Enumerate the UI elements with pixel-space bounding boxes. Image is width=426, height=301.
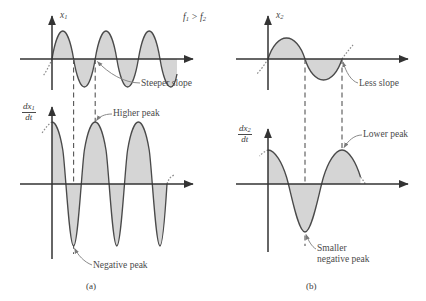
annotation-steeper-slope: Steeper slope	[141, 78, 192, 89]
frequency-condition: f1 > f2	[183, 12, 206, 22]
a-displacement-dotted-tail	[43, 59, 52, 76]
axis-label-dx2dt-denominator: dt	[238, 135, 252, 144]
annotation-less-slope: Less slope	[359, 78, 399, 89]
panel-tag-b: (b)	[306, 281, 317, 291]
figure-root: f1 > f2 x1 dx1 dt Steeper slope Higher p…	[0, 0, 426, 301]
dx2-base: dx	[239, 123, 248, 133]
axis-label-x2-sub: 2	[280, 13, 283, 20]
smaller-negative-peak-line2: negative peak	[317, 254, 370, 264]
b-velocity-dotted-tail-left	[260, 150, 269, 156]
axis-label-dx2dt: dx2 dt	[238, 124, 252, 144]
a-velocity-dotted-tail-right	[167, 175, 174, 184]
lower-peak-leader	[344, 135, 362, 148]
panel-tag-a: (a)	[86, 281, 96, 291]
chart-b-velocity	[236, 129, 408, 252]
axis-label-x1: x1	[60, 10, 67, 21]
dx1-sub: 1	[32, 104, 35, 111]
b-velocity-fill	[268, 150, 361, 232]
axis-label-dx1dt: dx1 dt	[22, 102, 36, 122]
b-displacement-dotted-tail-left	[257, 59, 268, 74]
b-velocity-dotted-tail-right	[361, 177, 366, 184]
smaller-negative-peak-leader	[306, 235, 316, 250]
condition-rhs-sub: 2	[203, 15, 206, 22]
negative-peak-leader	[75, 249, 92, 266]
chart-a-velocity	[20, 107, 193, 259]
annotation-smaller-negative-peak: Smaller negative peak	[317, 243, 370, 265]
annotation-higher-peak: Higher peak	[113, 108, 160, 119]
dx2-sub: 2	[248, 126, 251, 133]
smaller-negative-peak-line1: Smaller	[317, 243, 347, 253]
a-velocity-dotted-tail-left	[42, 122, 52, 133]
less-slope-leader	[343, 62, 358, 83]
higher-peak-leader	[97, 114, 113, 121]
condition-op: >	[189, 12, 200, 22]
annotation-negative-peak: Negative peak	[93, 260, 148, 271]
axis-label-x1-sub: 1	[64, 13, 67, 20]
axis-label-dx1dt-denominator: dt	[22, 113, 36, 122]
dx1-base: dx	[23, 101, 32, 111]
annotation-lower-peak: Lower peak	[363, 129, 408, 140]
axis-label-x2: x2	[276, 10, 283, 21]
b-displacement-dotted-tail-right	[342, 45, 353, 59]
